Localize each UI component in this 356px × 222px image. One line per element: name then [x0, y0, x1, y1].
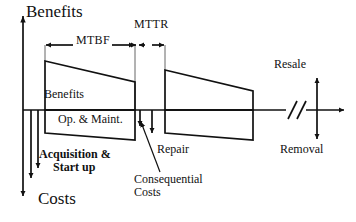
vertical-axis — [20, 16, 25, 196]
interval-label-mtbf: MTBF — [76, 34, 110, 47]
axis-break-icon — [288, 101, 306, 119]
annotation-consequential-line1: Consequential — [134, 172, 203, 186]
annotation-acquisition-line2: Start up — [39, 161, 111, 174]
annotation-acquisition-startup: Acquisition & Start up — [39, 148, 111, 173]
annotation-resale: Resale — [274, 58, 306, 71]
op-maint-block-2 — [165, 110, 253, 140]
repair-cost-arrows — [140, 110, 152, 133]
interval-label-mttr: MTTR — [134, 18, 169, 31]
axis-label-costs: Costs — [38, 190, 76, 208]
annotation-acquisition-line1: Acquisition & — [39, 147, 111, 161]
benefits-block-2 — [165, 70, 253, 110]
benefits-block-1 — [45, 61, 135, 110]
annotation-removal: Removal — [280, 143, 323, 156]
region-label-op-maint: Op. & Maint. — [58, 113, 123, 126]
axis-label-benefits: Benefits — [26, 3, 83, 21]
annotation-consequential-costs: Consequential Costs — [134, 173, 203, 198]
lifecycle-cost-benefit-diagram: Benefits Costs MTBF MTTR Benefits Op. & … — [0, 0, 356, 222]
acquisition-cost-arrows — [31, 110, 38, 178]
region-label-benefits: Benefits — [44, 88, 84, 101]
annotation-repair: Repair — [157, 143, 189, 156]
annotation-consequential-line2: Costs — [134, 186, 203, 199]
